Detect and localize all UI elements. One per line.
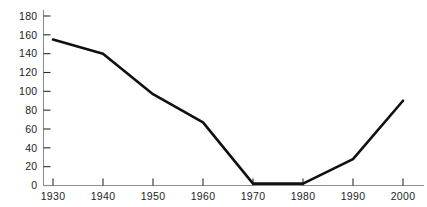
chart-canvas: 020406080100120140160180 193019401950196… [0,0,427,207]
x-tick-label: 2000 [391,190,416,202]
x-tick-label: 1930 [41,190,66,202]
data-series-group [53,40,403,184]
y-tick-label: 140 [19,47,37,59]
data-series-line [53,40,403,184]
y-tick-label: 40 [25,142,37,154]
x-tick-label: 1960 [191,190,216,202]
y-tick-group [44,16,51,186]
y-tick-label-group: 020406080100120140160180 [19,10,37,192]
x-tick-label: 1950 [141,190,166,202]
line-chart: 020406080100120140160180 193019401950196… [0,0,427,207]
y-tick-label: 0 [31,179,37,191]
y-tick-label: 180 [19,10,37,22]
y-tick-label: 20 [25,160,37,172]
x-axis: 19301940195019601970198019902000 [41,179,424,202]
y-tick-label: 160 [19,29,37,41]
x-tick-label: 1940 [91,190,116,202]
y-tick-label: 80 [25,104,37,116]
y-tick-label: 60 [25,123,37,135]
y-axis: 020406080100120140160180 [19,10,50,192]
y-tick-label: 120 [19,66,37,78]
x-tick-label-group: 19301940195019601970198019902000 [41,190,416,202]
x-tick-group [53,179,403,186]
x-tick-label: 1990 [341,190,366,202]
x-tick-label: 1980 [291,190,316,202]
y-tick-label: 100 [19,85,37,97]
x-tick-label: 1970 [241,190,266,202]
